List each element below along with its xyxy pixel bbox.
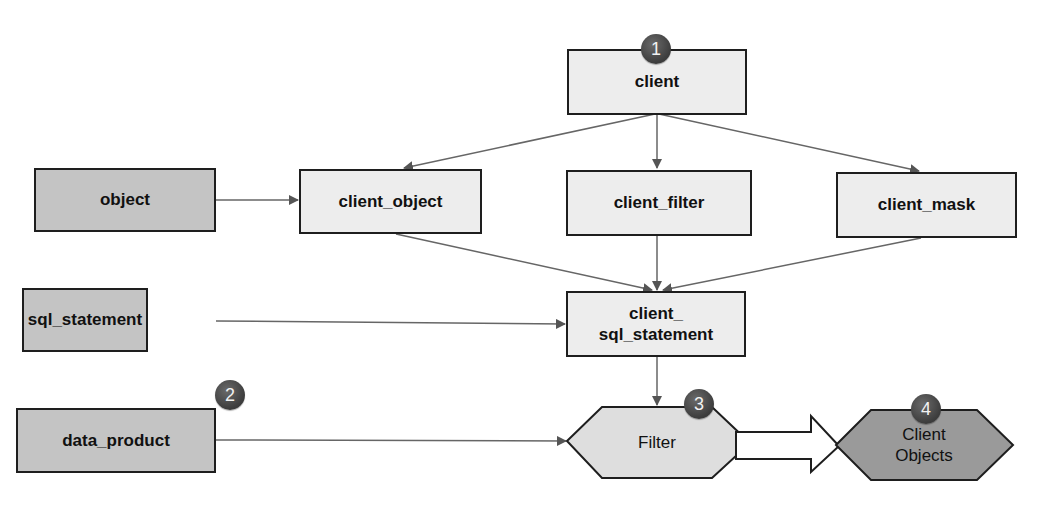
node-data-product[interactable]: data_product (16, 408, 216, 473)
step-badge-4: 4 (911, 394, 941, 424)
node-client-label: client (635, 71, 679, 92)
node-client-object[interactable]: client_object (299, 169, 482, 234)
node-sql-statement-label: sql_statement (28, 309, 142, 330)
node-client-object-label: client_object (339, 191, 443, 212)
node-client-mask-label: client_mask (878, 194, 975, 215)
diagram-canvas: client 1 object client_object client_fil… (0, 0, 1043, 508)
edge-client-to-client-object (404, 114, 655, 168)
node-client-mask[interactable]: client_mask (836, 172, 1017, 238)
node-data-product-label: data_product (62, 430, 170, 451)
node-client-objects-label-line2: Objects (895, 445, 953, 466)
step-badge-1: 1 (641, 34, 671, 64)
node-client-filter[interactable]: client_filter (566, 170, 752, 236)
step-badge-3: 3 (684, 389, 714, 419)
edge-data-product-to-filter (216, 440, 566, 441)
edge-client-object-to-client-sql-statement (396, 234, 652, 290)
block-arrow-filter-to-client-objects (736, 416, 839, 472)
node-client-filter-label: client_filter (614, 192, 705, 213)
node-client-sql-statement-label-line1: client_ (629, 303, 683, 324)
node-object[interactable]: object (34, 168, 216, 232)
node-client-sql-statement-label-line2: sql_statement (599, 324, 713, 345)
step-badge-2: 2 (215, 380, 245, 410)
node-object-label: object (100, 189, 150, 210)
node-client-objects-label-line1: Client (902, 424, 945, 445)
edge-client-mask-to-client-sql-statement (663, 238, 921, 290)
node-sql-statement[interactable]: sql_statement (22, 288, 148, 352)
node-client-sql-statement[interactable]: client_ sql_statement (566, 291, 746, 357)
edge-sql-statement-to-client-sql-statement (216, 321, 565, 324)
node-filter-label: Filter (638, 432, 676, 453)
edge-client-to-client-mask (659, 114, 919, 171)
